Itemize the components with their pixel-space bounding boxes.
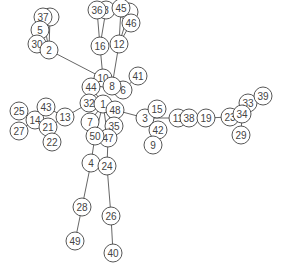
node-48: 48 bbox=[106, 101, 124, 119]
node-29: 29 bbox=[232, 126, 250, 144]
node-49: 49 bbox=[66, 232, 84, 250]
node-39: 39 bbox=[254, 87, 272, 105]
node-label: 42 bbox=[152, 125, 164, 136]
node-label: 19 bbox=[200, 113, 212, 124]
node-28: 28 bbox=[73, 198, 91, 216]
node-27: 27 bbox=[10, 122, 28, 140]
node-label: 48 bbox=[109, 105, 121, 116]
node-label: 45 bbox=[115, 3, 127, 14]
node-label: 22 bbox=[46, 137, 58, 148]
node-43: 43 bbox=[37, 98, 55, 116]
node-label: 29 bbox=[235, 130, 247, 141]
node-label: 44 bbox=[85, 82, 97, 93]
node-4: 4 bbox=[82, 154, 100, 172]
node-label: 27 bbox=[13, 126, 25, 137]
node-41: 41 bbox=[129, 67, 147, 85]
node-38: 38 bbox=[180, 109, 198, 127]
node-label: 24 bbox=[101, 161, 113, 172]
node-8: 8 bbox=[103, 77, 121, 95]
node-label: 3 bbox=[142, 113, 148, 124]
node-label: 4 bbox=[88, 158, 94, 169]
node-13: 13 bbox=[56, 108, 74, 126]
node-label: 5 bbox=[37, 25, 43, 36]
node-label: 26 bbox=[105, 211, 117, 222]
node-44: 44 bbox=[82, 78, 100, 96]
node-34: 34 bbox=[233, 105, 251, 123]
node-label: 32 bbox=[83, 98, 95, 109]
node-label: 2 bbox=[46, 45, 52, 56]
node-label: 13 bbox=[59, 112, 71, 123]
node-9: 9 bbox=[144, 136, 162, 154]
node-label: 46 bbox=[125, 18, 137, 29]
node-label: 8 bbox=[109, 81, 115, 92]
node-label: 21 bbox=[42, 122, 54, 133]
node-label: 36 bbox=[91, 5, 103, 16]
node-label: 12 bbox=[113, 39, 125, 50]
node-2: 2 bbox=[40, 41, 58, 59]
node-25: 25 bbox=[10, 102, 28, 120]
node-label: 1 bbox=[100, 99, 106, 110]
node-19: 19 bbox=[197, 109, 215, 127]
node-22: 22 bbox=[43, 133, 61, 151]
node-16: 16 bbox=[91, 37, 109, 55]
node-label: 43 bbox=[40, 102, 52, 113]
network-graph: 8364546375302161241610844321487354750424… bbox=[0, 0, 281, 270]
node-36: 36 bbox=[88, 1, 106, 19]
node-label: 15 bbox=[151, 104, 163, 115]
node-label: 40 bbox=[107, 248, 119, 259]
node-15: 15 bbox=[148, 100, 166, 118]
node-label: 25 bbox=[13, 106, 25, 117]
node-50: 50 bbox=[86, 127, 104, 145]
node-label: 49 bbox=[69, 236, 81, 247]
node-label: 28 bbox=[76, 202, 88, 213]
node-label: 7 bbox=[87, 117, 93, 128]
node-label: 50 bbox=[89, 131, 101, 142]
node-26: 26 bbox=[102, 207, 120, 225]
node-label: 16 bbox=[94, 41, 106, 52]
node-label: 39 bbox=[257, 91, 269, 102]
node-46: 46 bbox=[122, 14, 140, 32]
node-label: 34 bbox=[236, 109, 248, 120]
node-label: 41 bbox=[132, 71, 144, 82]
node-24: 24 bbox=[98, 157, 116, 175]
node-40: 40 bbox=[104, 244, 122, 262]
node-label: 9 bbox=[150, 140, 156, 151]
node-label: 38 bbox=[183, 113, 195, 124]
node-12: 12 bbox=[110, 35, 128, 53]
